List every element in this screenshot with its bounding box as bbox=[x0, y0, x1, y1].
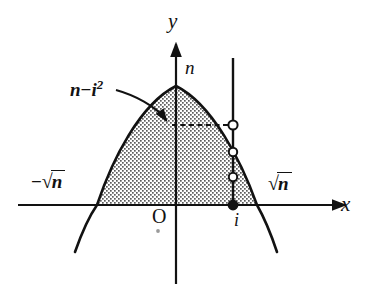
sqrt-radicand-left: n bbox=[51, 170, 66, 191]
figure-canvas bbox=[0, 0, 372, 298]
filled-point-on-axis bbox=[228, 200, 237, 209]
open-point-middle bbox=[229, 148, 237, 156]
height-label-n: n bbox=[70, 79, 81, 100]
open-point-lower bbox=[229, 173, 237, 181]
sqrt-radicand-right: n bbox=[277, 172, 292, 193]
left-root-label: −√n bbox=[31, 168, 65, 192]
figure-root: y x n O i n−i2 −√n √n bbox=[0, 0, 372, 298]
scan-speck bbox=[156, 229, 160, 233]
open-point-top bbox=[228, 120, 237, 129]
height-label-minus: − bbox=[81, 79, 92, 100]
y-axis-label: y bbox=[168, 11, 177, 32]
height-label: n−i2 bbox=[70, 79, 103, 99]
column-x-label: i bbox=[234, 211, 239, 229]
right-root-label: √n bbox=[268, 170, 292, 194]
origin-label: O bbox=[152, 206, 166, 226]
height-label-exponent: 2 bbox=[97, 77, 103, 92]
apex-value-label: n bbox=[185, 58, 195, 77]
minus-sign: − bbox=[31, 171, 42, 192]
x-axis-label: x bbox=[341, 194, 350, 215]
